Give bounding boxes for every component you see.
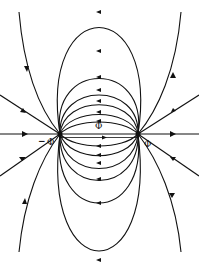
field-line-outer-right-top	[138, 12, 181, 134]
field-line-lower-1	[60, 134, 138, 146]
field-line-outer-left-top	[19, 12, 60, 134]
field-line-lower-6	[58, 134, 141, 251]
field-line-outer-left-bottom	[19, 134, 60, 252]
field-line-diagram	[0, 0, 199, 264]
right-charge-label: Φ	[144, 140, 151, 149]
left-charge-dot	[58, 132, 63, 137]
center-top-label: Φ	[95, 122, 102, 131]
field-line-right-diag-up	[138, 95, 199, 134]
left-charge-label: Φ	[47, 138, 54, 147]
field-line-upper-6	[57, 28, 140, 135]
right-charge-dot	[136, 132, 141, 137]
left-marker: −	[38, 137, 46, 146]
field-line-left-diag-up	[0, 95, 60, 134]
